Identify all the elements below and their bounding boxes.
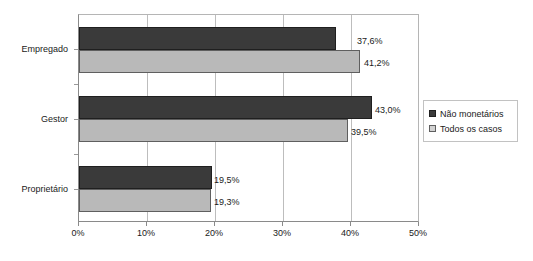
category-tick-3 [74, 119, 78, 120]
x-tick-mark-50 [418, 222, 419, 226]
x-tick-mark-10 [146, 222, 147, 226]
bar-proprietario-todos-os-casos[interactable] [79, 189, 211, 212]
category-tick-1 [74, 49, 78, 50]
x-tick-label-30: 30% [262, 228, 302, 239]
category-tick-5 [74, 189, 78, 190]
legend-label-todos-os-casos: Todos os casos [440, 124, 502, 134]
x-tick-label-10: 10% [126, 228, 166, 239]
category-label-gestor: Gestor [0, 114, 68, 124]
value-label-gestor-nao-monetarios: 43,0% [375, 105, 401, 115]
x-tick-mark-30 [282, 222, 283, 226]
bar-proprietario-nao-monetarios[interactable] [79, 166, 212, 189]
x-tick-mark-20 [214, 222, 215, 226]
legend: Não monetários Todos os casos [423, 100, 518, 142]
x-tick-label-0: 0% [58, 228, 98, 239]
x-tick-label-50: 50% [398, 228, 438, 239]
category-tick-2 [74, 84, 78, 85]
legend-item-nao-monetarios[interactable]: Não monetários [429, 106, 512, 121]
value-label-empregado-nao-monetarios: 37,6% [357, 36, 383, 46]
light-square-icon [429, 125, 436, 132]
x-tick-mark-40 [350, 222, 351, 226]
value-label-gestor-todos-os-casos: 39,5% [351, 127, 377, 137]
bar-gestor-todos-os-casos[interactable] [79, 119, 348, 142]
value-label-proprietario-nao-monetarios: 19,5% [214, 175, 240, 185]
x-tick-mark-0 [78, 222, 79, 226]
category-label-proprietario: Proprietário [0, 184, 68, 194]
value-label-proprietario-todos-os-casos: 19,3% [214, 197, 240, 207]
category-label-empregado: Empregado [0, 44, 68, 54]
bar-gestor-nao-monetarios[interactable] [79, 96, 372, 119]
bar-empregado-todos-os-casos[interactable] [79, 50, 360, 73]
value-label-empregado-todos-os-casos: 41,2% [364, 58, 390, 68]
x-tick-label-20: 20% [194, 228, 234, 239]
bar-empregado-nao-monetarios[interactable] [79, 27, 336, 50]
bar-chart: 37,6% 41,2% 43,0% 39,5% 19,5% 19,3% Empr… [0, 0, 533, 261]
dark-square-icon [429, 110, 436, 117]
legend-label-nao-monetarios: Não monetários [440, 109, 504, 119]
category-tick-4 [74, 154, 78, 155]
legend-item-todos-os-casos[interactable]: Todos os casos [429, 121, 512, 136]
x-tick-label-40: 40% [330, 228, 370, 239]
